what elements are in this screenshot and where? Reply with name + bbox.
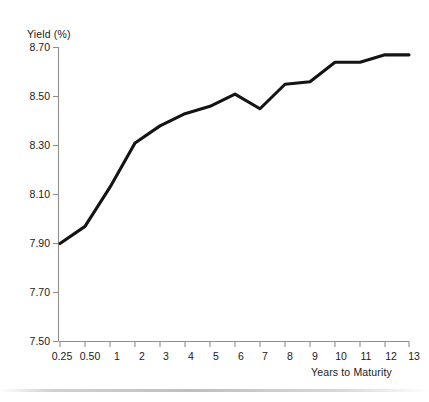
x-axis-ticks xyxy=(60,342,409,348)
y-tick-label-7-90: 7.90 xyxy=(14,237,50,249)
x-tick-label-5: 5 xyxy=(213,350,219,362)
chart-figure: 8.70 8.50 8.30 8.10 7.90 7.70 7.50 0.25 … xyxy=(0,0,429,402)
x-tick-label-10: 10 xyxy=(335,350,347,362)
y-tick-label-8-70: 8.70 xyxy=(14,41,50,53)
x-tick-label-9: 9 xyxy=(312,350,318,362)
yield-curve-plot xyxy=(0,0,429,402)
x-tick-label-13: 13 xyxy=(408,350,420,362)
x-tick-label-8: 8 xyxy=(287,350,293,362)
y-tick-label-8-30: 8.30 xyxy=(14,139,50,151)
x-tick-label-0-25: 0.25 xyxy=(52,350,72,362)
x-tick-label-12: 12 xyxy=(385,350,397,362)
yield-curve-line xyxy=(60,55,409,244)
x-tick-label-6: 6 xyxy=(238,350,244,362)
y-tick-label-8-50: 8.50 xyxy=(14,90,50,102)
y-axis-ticks xyxy=(53,48,59,342)
x-axis-title: Years to Maturity xyxy=(311,366,392,378)
y-axis-title: Yield (%) xyxy=(27,28,71,40)
y-tick-label-7-50: 7.50 xyxy=(14,335,50,347)
page-edge-shadow xyxy=(0,389,429,392)
x-tick-label-1: 1 xyxy=(114,350,120,362)
x-tick-label-11: 11 xyxy=(361,350,372,362)
x-tick-label-4: 4 xyxy=(188,350,194,362)
y-tick-label-7-70: 7.70 xyxy=(14,286,50,298)
x-tick-label-7: 7 xyxy=(262,350,268,362)
x-tick-label-0-50: 0.50 xyxy=(80,350,100,362)
y-tick-label-8-10: 8.10 xyxy=(14,188,50,200)
x-tick-label-2: 2 xyxy=(139,350,145,362)
x-tick-label-3: 3 xyxy=(163,350,169,362)
